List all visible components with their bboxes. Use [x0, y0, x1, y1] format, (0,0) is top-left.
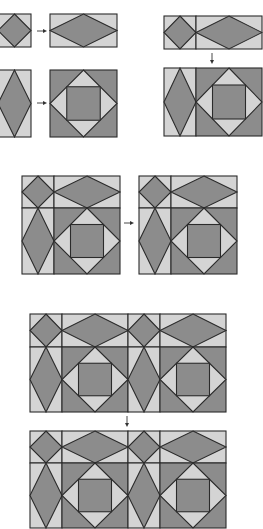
- step2-bottom-row: [164, 68, 262, 136]
- step3-block-after: [139, 176, 237, 274]
- arrow-down-icon: [210, 53, 214, 64]
- arrow-right-icon: [37, 29, 47, 33]
- arrow-right-icon: [124, 221, 134, 225]
- step1a-pieces: [0, 14, 31, 47]
- step1b-pieces: [0, 70, 31, 137]
- step4-row-before: [30, 314, 226, 412]
- step1a-result: [50, 14, 117, 47]
- arrow-down-icon: [125, 416, 129, 427]
- step1b-result: [50, 70, 117, 137]
- step2-top-row: [164, 16, 262, 49]
- step3-block-before: [22, 176, 120, 274]
- quilt-diagram: [0, 0, 263, 529]
- step4-row-after: [30, 431, 226, 528]
- arrow-right-icon: [37, 101, 47, 105]
